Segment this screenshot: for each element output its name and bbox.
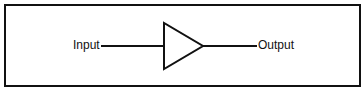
diagram-canvas xyxy=(0,0,364,91)
amplifier-triangle-icon xyxy=(164,23,203,69)
output-label: Output xyxy=(258,38,294,52)
input-label: Input xyxy=(73,38,100,52)
